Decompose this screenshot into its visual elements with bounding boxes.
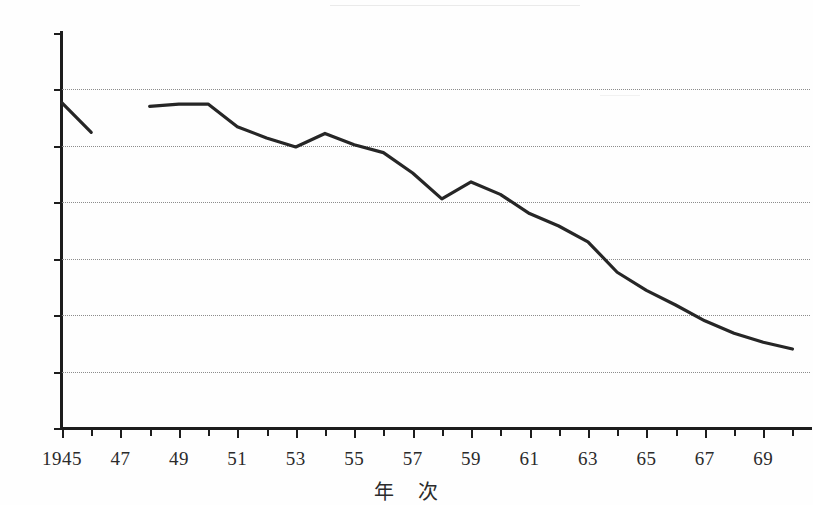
- x-tick-label: 55: [344, 448, 364, 470]
- chart-figure: 35%30%25%20%15%10%5%0% 19454749515355575…: [0, 0, 813, 505]
- x-tick: [150, 428, 152, 436]
- x-tick-label: 1945: [42, 448, 82, 470]
- y-tick: [54, 259, 62, 261]
- x-tick: [91, 428, 93, 436]
- x-tick-label: 61: [520, 448, 540, 470]
- y-tick: [54, 33, 62, 35]
- x-tick-label: 47: [110, 448, 130, 470]
- x-tick: [588, 428, 590, 438]
- plot-area: 35%30%25%20%15%10%5%0% 19454749515355575…: [62, 33, 810, 428]
- y-tick: [54, 428, 62, 430]
- x-tick: [442, 428, 444, 436]
- x-tick: [676, 428, 678, 436]
- x-tick: [705, 428, 707, 438]
- series-polyline: [62, 103, 91, 132]
- x-tick: [267, 428, 269, 436]
- x-tick-label: 67: [695, 448, 715, 470]
- x-tick: [530, 428, 532, 438]
- x-tick: [237, 428, 239, 438]
- x-tick: [471, 428, 473, 438]
- x-tick: [179, 428, 181, 438]
- x-tick: [325, 428, 327, 436]
- x-tick-label: 57: [403, 448, 423, 470]
- x-tick-label: 59: [461, 448, 481, 470]
- x-tick: [617, 428, 619, 436]
- x-tick: [763, 428, 765, 438]
- x-tick-label: 63: [578, 448, 598, 470]
- x-tick-label: 49: [169, 448, 189, 470]
- y-tick: [54, 146, 62, 148]
- x-tick: [62, 428, 64, 438]
- x-tick: [120, 428, 122, 438]
- y-tick: [54, 372, 62, 374]
- x-tick-label: 69: [753, 448, 773, 470]
- x-tick: [734, 428, 736, 436]
- x-tick: [296, 428, 298, 438]
- x-tick: [383, 428, 385, 436]
- x-tick-label: 53: [286, 448, 306, 470]
- x-tick-label: 65: [636, 448, 656, 470]
- series-polyline: [150, 104, 793, 349]
- x-tick: [792, 428, 794, 436]
- x-tick: [413, 428, 415, 438]
- x-axis-title: 年 次: [0, 476, 813, 505]
- x-tick: [646, 428, 648, 438]
- x-tick-label: 51: [227, 448, 247, 470]
- x-tick: [354, 428, 356, 438]
- y-tick: [54, 202, 62, 204]
- y-tick: [54, 315, 62, 317]
- scan-artifact: [330, 5, 580, 6]
- data-series-line: [62, 33, 810, 428]
- x-tick: [559, 428, 561, 436]
- x-tick: [208, 428, 210, 436]
- x-tick: [500, 428, 502, 436]
- y-tick: [54, 89, 62, 91]
